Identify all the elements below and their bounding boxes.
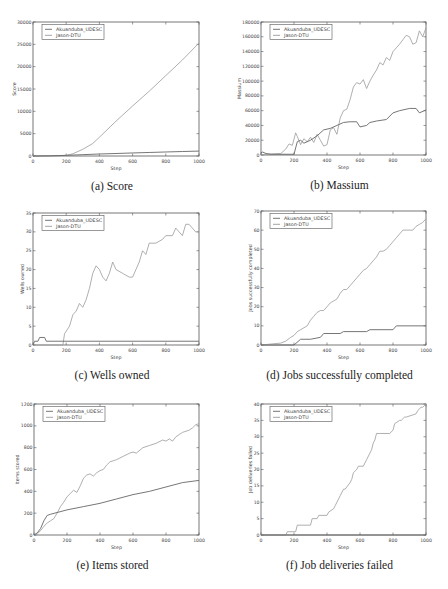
y-tick-label: 5 bbox=[29, 324, 32, 329]
y-tick-label: 0 bbox=[29, 343, 32, 348]
y-tick-label: 50 bbox=[254, 247, 260, 252]
y-tick-label: 40000 bbox=[245, 123, 260, 128]
y-tick-label: 5 bbox=[257, 516, 260, 521]
y-tick-label: 20000 bbox=[245, 138, 260, 143]
y-tick-label: 35 bbox=[26, 211, 32, 216]
chart-c: 02004006008001000Step05101520253035Wells… bbox=[20, 211, 205, 360]
x-tick-label: 0 bbox=[260, 538, 263, 543]
x-tick-label: 800 bbox=[389, 348, 398, 353]
x-tick-label: 400 bbox=[323, 348, 332, 353]
y-tick-label: 15000 bbox=[17, 87, 32, 92]
plot-frame bbox=[261, 404, 426, 535]
legend: Akuanduba_UDESCJason-DTU bbox=[42, 216, 104, 231]
y-tick-label: 5000 bbox=[20, 131, 32, 136]
y-tick-label: 0 bbox=[30, 533, 33, 538]
y-tick-label: 160000 bbox=[242, 34, 260, 39]
y-tick-label: 800 bbox=[24, 445, 33, 450]
y-tick-label: 30 bbox=[26, 229, 32, 234]
x-tick-label: 0 bbox=[260, 348, 263, 353]
x-tick-label: 800 bbox=[161, 159, 170, 164]
caption-c: (c) Wells owned bbox=[75, 369, 150, 381]
y-tick-label: 10000 bbox=[17, 109, 32, 114]
x-tick-label: 600 bbox=[356, 158, 365, 163]
y-tick-label: 80000 bbox=[245, 93, 260, 98]
x-tick-label: 800 bbox=[389, 538, 398, 543]
x-tick-label: 400 bbox=[95, 159, 104, 164]
charts-canvas: 02004006008001000Step0500010000150002000… bbox=[0, 0, 448, 589]
caption-f: (f) Job deliveries failed bbox=[286, 559, 393, 571]
caption-a: (a) Score bbox=[91, 180, 133, 192]
caption-e: (e) Items stored bbox=[76, 559, 148, 571]
y-tick-label: 30000 bbox=[17, 20, 32, 25]
x-tick-label: 600 bbox=[128, 348, 137, 353]
y-axis-label: Job deliveries failed bbox=[248, 446, 253, 494]
y-tick-label: 40 bbox=[254, 402, 260, 407]
y-tick-label: 180000 bbox=[242, 20, 260, 25]
y-tick-label: 1000 bbox=[21, 423, 33, 428]
x-tick-label: 600 bbox=[129, 538, 138, 543]
y-tick-label: 20 bbox=[254, 467, 260, 472]
chart-d: 02004006008001000Step010203040506070Jobs… bbox=[248, 209, 432, 360]
legend: Akuanduba_UDESCJason-DTU bbox=[270, 214, 332, 229]
chart-f: 02004006008001000Step0510152025303540Job… bbox=[248, 402, 432, 550]
y-tick-label: 15 bbox=[254, 483, 260, 488]
x-tick-label: 600 bbox=[128, 159, 137, 164]
y-tick-label: 0 bbox=[257, 533, 260, 538]
x-tick-label: 600 bbox=[356, 348, 365, 353]
legend: Akuanduba_UDESCJason-DTU bbox=[43, 407, 105, 422]
y-axis-label: Items stored bbox=[15, 454, 20, 484]
y-tick-label: 25 bbox=[26, 248, 32, 253]
legend: Akuanduba_UDESCJason-DTU bbox=[270, 25, 332, 40]
y-tick-label: 20000 bbox=[17, 64, 32, 69]
y-tick-label: 140000 bbox=[242, 49, 260, 54]
chart-b: 02004006008001000Step0200004000060000800… bbox=[237, 20, 432, 170]
caption-b: (b) Massium bbox=[310, 179, 368, 191]
caption-d: (d) Jobs successfully completed bbox=[266, 369, 413, 381]
x-axis-label: Step bbox=[111, 166, 122, 171]
x-axis-label: Step bbox=[338, 545, 349, 550]
legend: Akuanduba_UDESCJason-DTU bbox=[270, 407, 332, 422]
legend-label: Jason-DTU bbox=[55, 224, 81, 229]
y-tick-label: 30 bbox=[254, 285, 260, 290]
chart-a: 02004006008001000Step0500010000150002000… bbox=[12, 20, 205, 171]
x-tick-label: 400 bbox=[95, 348, 104, 353]
x-tick-label: 200 bbox=[63, 538, 72, 543]
x-tick-label: 200 bbox=[290, 158, 299, 163]
x-tick-label: 600 bbox=[356, 538, 365, 543]
y-tick-label: 0 bbox=[257, 343, 260, 348]
x-tick-label: 1000 bbox=[193, 159, 205, 164]
y-tick-label: 100000 bbox=[242, 79, 260, 84]
y-tick-label: 400 bbox=[24, 489, 33, 494]
x-tick-label: 200 bbox=[290, 538, 299, 543]
x-tick-label: 800 bbox=[389, 158, 398, 163]
x-tick-label: 1000 bbox=[193, 348, 205, 353]
plot-frame bbox=[33, 22, 199, 156]
y-tick-label: 600 bbox=[24, 467, 33, 472]
x-tick-label: 1000 bbox=[420, 538, 432, 543]
y-tick-label: 60 bbox=[254, 228, 260, 233]
legend-label: Jason-DTU bbox=[283, 33, 309, 38]
y-tick-label: 10 bbox=[254, 500, 260, 505]
x-tick-label: 200 bbox=[62, 348, 71, 353]
y-tick-label: 10 bbox=[254, 323, 260, 328]
y-tick-label: 35 bbox=[254, 418, 260, 423]
y-tick-label: 25 bbox=[254, 451, 260, 456]
legend: Akuanduba_UDESCJason-DTU bbox=[42, 25, 104, 40]
plot-frame bbox=[261, 211, 426, 345]
y-tick-label: 15 bbox=[26, 286, 32, 291]
plot-frame bbox=[34, 404, 199, 535]
legend-label: Jason-DTU bbox=[283, 415, 309, 420]
y-axis-label: Massium bbox=[237, 78, 242, 99]
x-axis-label: Step bbox=[111, 355, 122, 360]
y-tick-label: 120000 bbox=[242, 64, 260, 69]
x-tick-label: 400 bbox=[323, 158, 332, 163]
y-tick-label: 30 bbox=[254, 434, 260, 439]
y-tick-label: 25000 bbox=[17, 42, 32, 47]
legend-label: Jason-DTU bbox=[55, 33, 81, 38]
y-tick-label: 0 bbox=[29, 154, 32, 159]
x-tick-label: 800 bbox=[161, 348, 170, 353]
x-axis-label: Step bbox=[338, 355, 349, 360]
y-tick-label: 40 bbox=[254, 266, 260, 271]
x-axis-label: Step bbox=[111, 545, 122, 550]
y-tick-label: 70 bbox=[254, 209, 260, 214]
